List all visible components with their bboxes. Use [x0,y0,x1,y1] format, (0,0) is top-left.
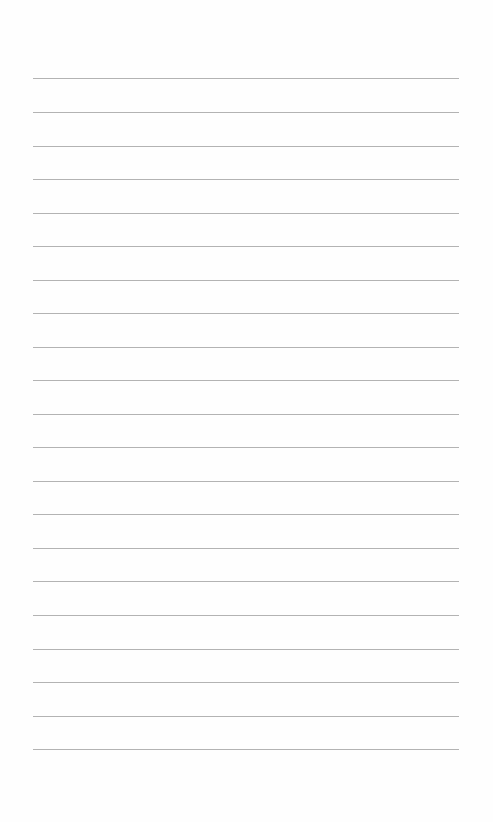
ruled-line [33,246,459,247]
ruled-line [33,112,459,113]
ruled-line [33,548,459,549]
ruled-line [33,682,459,683]
ruled-line [33,581,459,582]
ruled-line [33,313,459,314]
ruled-line [33,179,459,180]
ruled-line [33,347,459,348]
ruled-line [33,414,459,415]
ruled-line [33,615,459,616]
ruled-line [33,481,459,482]
ruled-line [33,716,459,717]
ruled-line [33,447,459,448]
ruled-line [33,749,459,750]
ruled-line [33,146,459,147]
ruled-line [33,213,459,214]
ruled-line [33,514,459,515]
ruled-line [33,380,459,381]
lined-paper-page [0,0,493,822]
ruled-line [33,78,459,79]
ruled-line [33,649,459,650]
ruled-line [33,280,459,281]
